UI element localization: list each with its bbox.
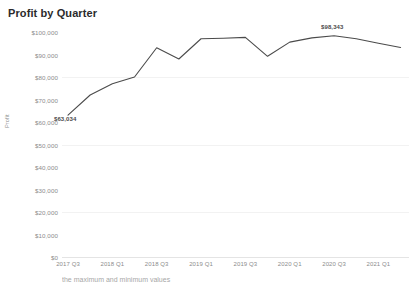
y-axis-tick-label: $40,000 [35,164,58,171]
y-axis-tick-label: $0 [51,254,58,261]
y-axis-tick-label: $90,000 [35,51,58,58]
y-axis-tick-label: $50,000 [35,141,58,148]
y-axis-tick-label: $10,000 [35,231,58,238]
x-axis-tick-label: 2020 Q1 [278,261,302,267]
y-axis-ticks: $0$10,000$20,000$30,000$40,000$50,000$60… [0,32,58,257]
footnote-text: the maximum and minimum values [62,276,417,286]
y-axis-tick-label: $20,000 [35,209,58,216]
y-axis-tick-label: $30,000 [35,186,58,193]
x-axis-tick-label: 2019 Q3 [234,261,258,267]
y-axis-tick-label: $80,000 [35,74,58,81]
y-axis-tick-label: $70,000 [35,96,58,103]
x-axis-tick-label: 2020 Q3 [322,261,346,267]
x-axis-tick-label: 2018 Q1 [100,261,124,267]
x-axis-tick-label: 2018 Q3 [145,261,169,267]
x-axis-tick-label: 2019 Q1 [189,261,213,267]
x-axis-tick-label: 2021 Q1 [367,261,391,267]
x-axis-line [62,257,409,258]
chart-title: Profit by Quarter [8,7,97,19]
x-axis-tick-label: 2017 Q3 [56,261,80,267]
data-point-label: $63,034 [54,116,76,122]
y-axis-tick-label: $100,000 [31,29,58,36]
profit-line-series [62,32,409,257]
data-point-label: $98,343 [321,24,343,30]
chart-canvas: Profit by Quarter Profit $0$10,000$20,00… [0,0,417,286]
line-path [68,36,401,115]
x-axis-ticks: 2017 Q32018 Q12018 Q32019 Q12019 Q32020 … [62,259,409,273]
plot-area: $63,034$98,343 [62,32,409,257]
